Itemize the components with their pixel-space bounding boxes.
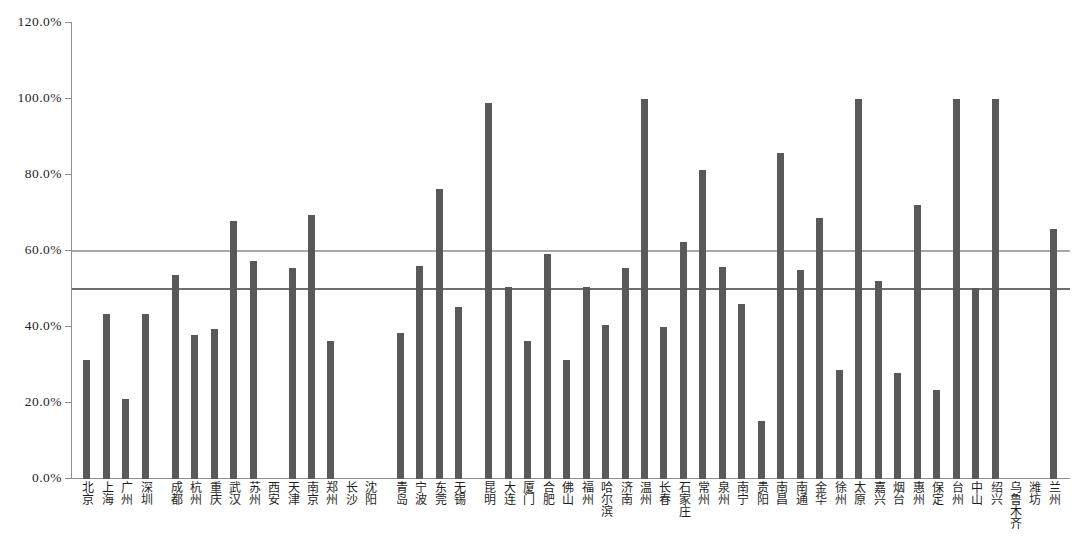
y-tick-label: 80.0% <box>25 166 62 182</box>
bar-chart: 0.0%20.0%40.0%60.0%80.0%100.0%120.0% 北京上… <box>0 0 1075 544</box>
bar <box>992 99 999 479</box>
bar <box>230 221 237 479</box>
bar <box>738 304 745 479</box>
x-tick-label: 哈尔滨 <box>600 481 612 517</box>
bar <box>777 153 784 479</box>
bar <box>1050 229 1057 479</box>
bar <box>544 254 551 479</box>
x-tick-label: 大连 <box>502 481 514 505</box>
y-tick-mark <box>65 478 72 479</box>
bar <box>83 360 90 479</box>
bar <box>719 267 726 479</box>
bar <box>563 360 570 479</box>
x-tick-label: 惠州 <box>911 481 923 505</box>
x-tick-label: 福州 <box>580 481 592 505</box>
bar <box>397 333 404 479</box>
x-tick-label: 乌鲁木齐 <box>1009 481 1021 529</box>
bar <box>894 373 901 479</box>
bar <box>797 270 804 479</box>
y-tick-label: 60.0% <box>25 242 62 258</box>
bar <box>914 205 921 479</box>
y-axis: 0.0%20.0%40.0%60.0%80.0%100.0%120.0% <box>0 0 68 544</box>
bar <box>455 307 462 479</box>
bar <box>103 314 110 479</box>
x-tick-label: 台州 <box>950 481 962 505</box>
bar <box>660 327 667 479</box>
bar <box>933 390 940 479</box>
bar <box>142 314 149 479</box>
x-tick-label: 佛山 <box>561 481 573 505</box>
x-tick-label: 贵阳 <box>755 481 767 505</box>
bar <box>953 99 960 479</box>
x-tick-label: 南京 <box>306 481 318 505</box>
bar <box>875 281 882 479</box>
x-tick-label: 昆明 <box>483 481 495 505</box>
x-tick-label: 泉州 <box>716 481 728 505</box>
x-tick-label: 东莞 <box>433 481 445 505</box>
bar <box>816 218 823 479</box>
y-tick-mark <box>65 22 72 23</box>
x-tick-label: 中山 <box>970 481 982 505</box>
bar <box>641 99 648 479</box>
bar <box>122 399 129 479</box>
y-tick-label: 40.0% <box>25 318 62 334</box>
y-tick-label: 120.0% <box>17 14 62 30</box>
x-tick-label: 厦门 <box>522 481 534 505</box>
bar <box>485 103 492 479</box>
bar <box>524 341 531 479</box>
bar <box>583 287 590 479</box>
x-tick-label: 长沙 <box>344 481 356 505</box>
bar <box>622 268 629 479</box>
x-tick-label: 宁波 <box>414 481 426 505</box>
y-tick-mark <box>65 326 72 327</box>
bar <box>602 325 609 479</box>
x-tick-label: 青岛 <box>394 481 406 505</box>
x-tick-label: 南通 <box>794 481 806 505</box>
x-tick-label: 上海 <box>100 481 112 505</box>
x-tick-label: 石家庄 <box>677 481 689 517</box>
x-tick-label: 深圳 <box>139 481 151 505</box>
x-tick-label: 烟台 <box>892 481 904 505</box>
x-tick-label: 长春 <box>658 481 670 505</box>
x-tick-label: 太原 <box>853 481 865 505</box>
y-tick-mark <box>65 98 72 99</box>
x-tick-label: 兰州 <box>1047 481 1059 505</box>
y-tick-mark <box>65 402 72 403</box>
bar <box>505 287 512 479</box>
bar <box>972 288 979 479</box>
bar <box>680 242 687 479</box>
x-tick-label: 南宁 <box>736 481 748 505</box>
x-tick-label: 常州 <box>697 481 709 505</box>
x-tick-label: 广州 <box>120 481 132 505</box>
x-tick-label: 嘉兴 <box>872 481 884 505</box>
bar <box>836 370 843 479</box>
bar <box>758 421 765 479</box>
x-tick-label: 济南 <box>619 481 631 505</box>
x-axis: 北京上海广州深圳成都杭州重庆武汉苏州西安天津南京郑州长沙沈阳青岛宁波东莞无锡昆明… <box>72 481 1070 544</box>
x-tick-label: 重庆 <box>208 481 220 505</box>
bar <box>416 266 423 479</box>
bar <box>855 99 862 479</box>
bar <box>191 335 198 479</box>
x-tick-label: 杭州 <box>189 481 201 505</box>
x-tick-label: 保定 <box>931 481 943 505</box>
x-tick-label: 武汉 <box>228 481 240 505</box>
x-tick-label: 无锡 <box>453 481 465 505</box>
x-tick-label: 沈阳 <box>364 481 376 505</box>
x-tick-label: 郑州 <box>325 481 337 505</box>
bar <box>289 268 296 479</box>
y-tick-mark <box>65 174 72 175</box>
bar <box>308 215 315 479</box>
x-tick-label: 北京 <box>81 481 93 505</box>
x-tick-label: 南昌 <box>775 481 787 505</box>
x-tick-label: 西安 <box>267 481 279 505</box>
bar <box>172 275 179 479</box>
y-tick-mark <box>65 250 72 251</box>
bar <box>211 329 218 479</box>
x-tick-label: 苏州 <box>247 481 259 505</box>
x-tick-label: 天津 <box>286 481 298 505</box>
x-tick-label: 温州 <box>639 481 651 505</box>
bar <box>436 189 443 479</box>
y-tick-label: 0.0% <box>32 470 62 486</box>
plot-area <box>72 22 1070 479</box>
